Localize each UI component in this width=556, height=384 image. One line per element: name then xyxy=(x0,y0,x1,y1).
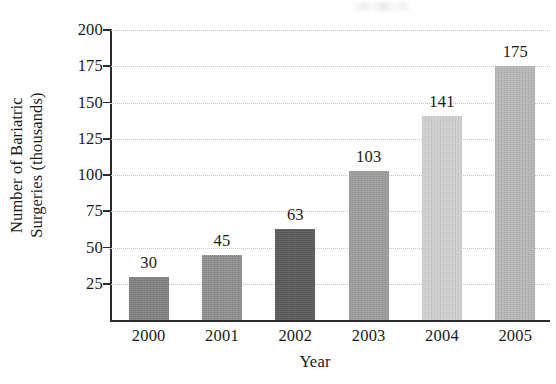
x-axis-tick-label: 2000 xyxy=(132,326,166,346)
scan-artifact xyxy=(352,2,412,11)
bar: 141 xyxy=(422,116,462,320)
x-axis-tick-label: 2002 xyxy=(278,326,312,346)
x-axis-tick-label: 2001 xyxy=(205,326,239,346)
bar-texture xyxy=(349,171,389,320)
bar-chart-figure: Number of Bariatric Surgeries (thousands… xyxy=(0,0,556,384)
y-axis-tick xyxy=(103,247,111,249)
x-axis-tick-label: 2005 xyxy=(498,326,532,346)
y-axis-tick xyxy=(103,138,111,140)
bar-texture xyxy=(495,66,535,320)
y-axis-tick-label: 100 xyxy=(78,165,103,185)
y-axis-tick-label: 25 xyxy=(86,273,103,293)
y-axis-tick xyxy=(103,174,111,176)
y-axis-tick xyxy=(103,65,111,67)
y-axis-tick-label: 75 xyxy=(86,201,103,221)
y-axis-tick xyxy=(103,210,111,212)
y-axis-title-line-1: Number of Bariatric xyxy=(8,97,27,233)
bar: 103 xyxy=(349,171,389,320)
gridline xyxy=(110,66,550,67)
bar-texture xyxy=(202,255,242,320)
bar-texture xyxy=(422,116,462,320)
y-axis-tick-label: 150 xyxy=(78,92,103,112)
bar-value-label: 175 xyxy=(503,42,528,62)
y-axis-tick-label: 175 xyxy=(78,56,103,76)
gridline xyxy=(110,175,550,176)
gridline xyxy=(110,103,550,104)
bar-value-label: 45 xyxy=(214,231,231,251)
bar-value-label: 63 xyxy=(287,205,304,225)
x-axis-tick-label: 2004 xyxy=(425,326,459,346)
y-axis-tick xyxy=(103,283,111,285)
bar: 45 xyxy=(202,255,242,320)
bar-value-label: 103 xyxy=(356,147,381,167)
y-axis-tick-label: 200 xyxy=(78,20,103,40)
bar: 175 xyxy=(495,66,535,320)
gridline xyxy=(110,211,550,212)
bar: 30 xyxy=(129,277,169,321)
gridline xyxy=(110,248,550,249)
plot-area: 255075100125150175200 304563103141175 20… xyxy=(110,30,550,320)
y-axis-title-line-2: Surgeries (thousands) xyxy=(28,92,48,237)
y-axis-tick-label: 50 xyxy=(86,237,103,257)
gridline xyxy=(110,284,550,285)
bar: 63 xyxy=(275,229,315,320)
gridline xyxy=(110,30,550,31)
gridline xyxy=(110,139,550,140)
x-axis-line xyxy=(110,320,550,322)
y-axis-tick xyxy=(103,29,111,31)
y-axis-tick xyxy=(103,102,111,104)
x-axis-title: Year xyxy=(100,352,530,372)
bar-value-label: 30 xyxy=(140,253,157,273)
bar-texture xyxy=(129,277,169,321)
bar-value-label: 141 xyxy=(429,92,454,112)
x-axis-tick-label: 2003 xyxy=(352,326,386,346)
y-axis-tick-label: 125 xyxy=(78,128,103,148)
bar-texture xyxy=(275,229,315,320)
y-axis-title: Number of Bariatric Surgeries (thousands… xyxy=(0,0,56,330)
